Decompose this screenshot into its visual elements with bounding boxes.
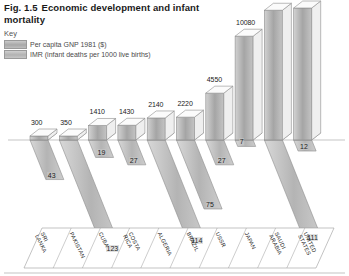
imr-value-label-7: 7 — [239, 138, 244, 145]
gnp-bar-3 — [118, 118, 145, 140]
gnp-bar-8 — [264, 3, 291, 140]
imr-value-label-5: 75 — [206, 201, 215, 208]
figure-root: Fig. 1.5Economic development and infant … — [0, 0, 349, 276]
gnp-bar-9 — [294, 1, 321, 140]
imr-value-label-2: 19 — [97, 149, 106, 156]
gnp-bar-1 — [59, 129, 86, 140]
gnp-value-label-5: 2220 — [178, 100, 193, 107]
gnp-bar-5 — [177, 110, 204, 140]
chart-graphics — [0, 0, 349, 276]
imr-value-label-0: 43 — [47, 172, 56, 179]
gnp-value-label-0: 300 — [31, 119, 42, 126]
gnp-bar-7 — [235, 29, 262, 140]
gnp-value-label-3: 1430 — [119, 108, 134, 115]
imr-value-label-6: 27 — [217, 157, 226, 164]
gnp-bar-4 — [147, 111, 174, 140]
gnp-value-label-1: 350 — [60, 119, 71, 126]
gnp-value-label-6: 4550 — [207, 76, 222, 83]
gnp-value-label-4: 2140 — [148, 101, 163, 108]
gnp-bar-6 — [206, 86, 233, 140]
gnp-bar-2 — [89, 118, 116, 140]
imr-value-label-3: 27 — [129, 157, 138, 164]
gnp-bar-0 — [30, 129, 57, 140]
imr-value-label-9: 12 — [300, 143, 309, 150]
gnp-value-label-2: 1410 — [90, 108, 105, 115]
gnp-value-label-7: 10080 — [236, 19, 255, 26]
chart-plot-area: 4312319271147527711112300350141014302140… — [0, 0, 349, 276]
